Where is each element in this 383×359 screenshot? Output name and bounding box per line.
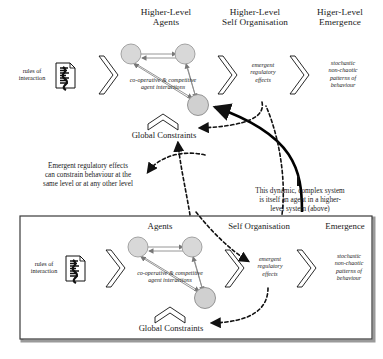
annotation-dynamic-complex-system: This dynamic, complex system is itself a… — [222, 187, 378, 214]
lower-rules-of-interaction-label: rules of interaction — [22, 260, 66, 275]
header-emergence: Emergence — [312, 222, 378, 232]
document-icon — [56, 63, 75, 90]
block-arrow-icon — [218, 56, 237, 94]
diagram-canvas: Higher-Level Agents Higher-Level Self Or… — [0, 0, 383, 359]
agent-circle-icon — [188, 95, 209, 116]
lower-emergence-description-label: stochastic non-chaotic patterns of behav… — [320, 253, 378, 282]
lower-emergent-regulatory-effects-label: emergent regulatory effects — [246, 256, 294, 278]
agent-circle-icon — [195, 288, 216, 309]
upper-agent-interactions-label: co-operative & competitive agent interac… — [108, 77, 218, 92]
upper-emergent-regulatory-effects-label: emergent regulatory effects — [239, 62, 287, 84]
annotation-emergent-regulatory-effects: Emergent regulatory effects can constrai… — [14, 162, 162, 189]
agent-circle-icon — [182, 237, 202, 257]
header-higher-level-agents: Higher-Level Agents — [120, 8, 212, 28]
header-higher-level-self-organisation: Higher-Level Self Organisation — [200, 8, 310, 28]
upper-global-constraints-label: Global Constraints — [112, 131, 216, 140]
agent-circle-icon — [128, 237, 148, 257]
upward-constraint-arrow-icon — [148, 114, 178, 130]
agent-circle-icon — [121, 44, 141, 64]
block-arrow-icon — [290, 56, 309, 94]
upper-rules-of-interaction-label: rules of interaction — [10, 67, 54, 82]
header-self-organisation: Self Organisation — [205, 222, 313, 232]
upper-emergence-description-label: stochastic non-chaotic patterns of behav… — [313, 60, 373, 90]
lower-agent-interactions-label: co-operative & competitive agent interac… — [115, 270, 225, 285]
document-icon — [66, 256, 85, 283]
lower-global-constraints-label: Global Constraints — [119, 324, 223, 333]
agent-circle-icon — [175, 44, 195, 64]
header-agents: Agents — [120, 222, 200, 232]
header-higher-level-emergence: Higer-Level Emergence — [300, 8, 380, 28]
